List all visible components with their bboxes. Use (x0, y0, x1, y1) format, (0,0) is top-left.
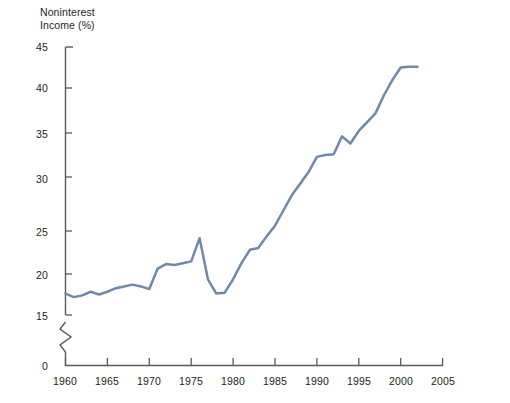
axis-break-icon (60, 322, 71, 352)
line-chart: Noninterest Income (%) 45 40 35 30 25 20… (0, 0, 510, 403)
chart-canvas (0, 0, 510, 403)
series-line-noninterest-income (66, 67, 418, 297)
y-tick-marks (66, 88, 73, 315)
x-tick-marks (66, 358, 443, 366)
